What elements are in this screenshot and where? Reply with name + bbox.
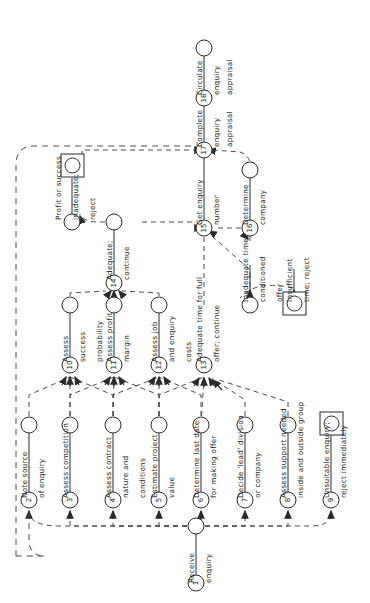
activity-label: enquiry [205,554,212,583]
node-number: 18 [201,94,208,103]
activity-label: Receive [188,553,195,583]
activity-label: Assess contract [105,437,112,498]
activity-label: nature and [122,456,129,498]
activity-label: continue [123,246,130,280]
node-number: 5 [156,498,163,502]
activity-label: Assess profit [106,312,113,362]
activity-label: appraisal [226,111,233,147]
node-number: 11 [111,361,118,370]
activity-label: offer [276,284,283,302]
activity-label: Determine last date [193,420,200,498]
node-number: 4 [110,498,117,502]
activity-label: Circulate [196,60,203,95]
diagram-vector-layer [0,0,370,603]
activity-label: inside and outside group [297,402,304,498]
node-number: 6 [198,498,205,502]
activity-label: Assess [62,336,69,362]
node-number: 12 [156,361,163,370]
activity-label: Adequate; [106,240,113,280]
node-number: 3 [67,498,74,502]
node-number: 1 [193,581,200,585]
activity-label: Profit or success [55,156,62,220]
node-number: 16 [247,224,254,233]
activity-label: Note source [21,451,28,498]
node-number: 2 [26,498,33,502]
activity-label: for making offer [210,435,217,498]
activity-label: reject immediately [340,425,347,498]
activity-label: number [213,195,220,225]
activity-label: Estimate project [151,434,158,498]
activity-label: Adequate time for full [196,277,203,362]
activity-label: and enquiry [168,315,175,362]
activity-label: Assess support needed [280,408,287,498]
activity-label: Assess competition [62,423,69,498]
node-number: 9 [328,498,335,502]
activity-label: enquiry [213,118,220,147]
network-diagram-canvas: Receive enquiry Note source of enquiry A… [0,0,370,603]
activity-label: inadequate; [72,173,79,220]
node-number: 7 [242,498,249,502]
activity-label: conditions [139,458,146,498]
activity-label: Insufficient [286,259,293,302]
activity-label: probability [96,320,103,362]
activity-label: value [168,477,175,498]
activity-label: Decide 'lead' division [237,415,244,498]
activity-label: or company [254,452,261,498]
activity-label: enquiry [213,66,220,95]
activity-label: Determine [242,184,249,225]
activity-label: reject [89,198,96,220]
activity-label: company [259,190,266,225]
activity-label: margin [123,335,130,362]
activity-label: Complete [196,110,203,147]
activity-label: Unsuitable enquiry; [323,422,330,498]
node-number: 17 [201,146,208,155]
activity-label: Get enquiry [196,179,203,225]
activity-label: time; reject [303,257,310,302]
activity-label: appraisal [226,59,233,95]
node-number: 14 [111,279,118,288]
activity-label: Assess job [151,321,158,362]
node-number: 10 [67,361,74,370]
node-number: 8 [285,498,292,502]
node-number: 15 [201,224,208,233]
activity-label: Inadequate time; [242,235,249,302]
node-number: 13 [201,361,208,370]
activity-label: success [79,332,86,362]
activity-label: conditioned [259,256,266,302]
activity-label: of enquiry [38,458,45,498]
activity-label: offer; continue [213,305,220,362]
activity-label: costs [185,342,192,362]
